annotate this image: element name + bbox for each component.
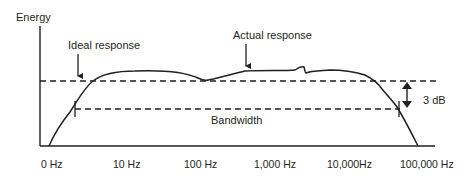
y-axis-label: Energy [16, 11, 51, 23]
frequency-response-diagram: Energy Ideal response Actual response Ba… [0, 0, 467, 180]
x-tick-1: 10 Hz [113, 158, 140, 170]
db-arrow-up-head [402, 82, 412, 89]
x-tick-5: 100,000 Hz [400, 158, 454, 170]
db-arrow-down-head [402, 101, 412, 108]
x-tick-2: 100 Hz [184, 158, 217, 170]
x-tick-0: 0 Hz [41, 158, 63, 170]
actual-response-label: Actual response [233, 29, 312, 41]
ideal-response-label: Ideal response [68, 39, 140, 51]
db-drop-label: 3 dB [423, 94, 446, 106]
x-tick-3: 1,000 Hz [254, 158, 296, 170]
bandwidth-label: Bandwidth [211, 114, 262, 126]
x-tick-4: 10,000Hz [327, 158, 372, 170]
actual-response-curve [49, 67, 418, 146]
